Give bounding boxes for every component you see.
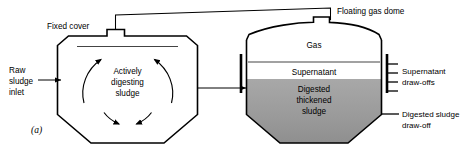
actively-digesting-label-line3: sludge xyxy=(115,89,140,98)
curved-arrow-icon-bottom-right xyxy=(137,113,152,125)
digested-thickened-label-line3: sludge xyxy=(302,107,327,116)
supernatant-drawoffs-group: Supernatant draw-offs xyxy=(387,64,446,91)
digested-thickened-label-line1: Digested xyxy=(298,85,331,94)
curved-arrow-icon-top-right xyxy=(155,60,173,104)
supernatant-label: Supernatant xyxy=(292,68,337,77)
fixed-cover-label: Fixed cover xyxy=(47,22,90,31)
digested-sludge-drawoff-label-line2: draw-off xyxy=(402,121,432,130)
digested-sludge-drawoff-group: Digested sludge draw-off xyxy=(382,110,460,130)
floating-gas-dome-outline xyxy=(247,17,382,40)
digested-thickened-label-line2: thickened xyxy=(296,96,331,105)
anaerobic-digester-diagram: Actively digesting sludge Fixed cover Ga… xyxy=(0,0,474,156)
actively-digesting-label-line1: Actively xyxy=(113,67,142,76)
gas-transfer-pipe xyxy=(116,8,331,29)
right-digester-tank: Gas Supernatant Digested thickened sludg… xyxy=(241,17,387,143)
floating-gas-dome-label: Floating gas dome xyxy=(337,7,405,16)
curved-arrow-icon-bottom-left xyxy=(104,113,119,125)
panel-letter: (a) xyxy=(31,125,42,136)
supernatant-drawoffs-label-line2: draw-offs xyxy=(402,78,435,87)
raw-sludge-inlet-label-line2: sludge xyxy=(9,77,34,86)
left-digester-tank: Actively digesting sludge xyxy=(58,30,198,144)
gas-label: Gas xyxy=(306,41,321,50)
raw-sludge-inlet-label-line1: Raw xyxy=(9,66,25,75)
digested-sludge-drawoff-label-line1: Digested sludge xyxy=(402,110,460,119)
raw-sludge-inlet-label-line3: inlet xyxy=(9,88,25,97)
curved-arrow-icon-top-left xyxy=(83,60,101,104)
digester-figure: Actively digesting sludge Fixed cover Ga… xyxy=(0,0,474,156)
gas-pipe-path xyxy=(116,8,331,29)
raw-sludge-inlet-group: Raw sludge inlet xyxy=(9,66,61,97)
supernatant-drawoffs-label-line1: Supernatant xyxy=(402,67,446,76)
actively-digesting-label-line2: digesting xyxy=(111,78,144,87)
